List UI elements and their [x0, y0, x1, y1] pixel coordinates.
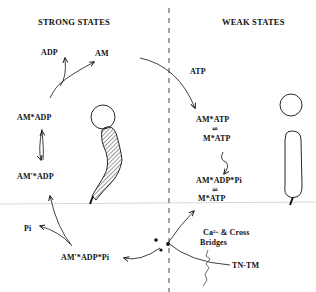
label-am-atp: AM*ATP [196, 115, 229, 124]
label-m-atp-2: M*ATP [198, 194, 225, 203]
scan-artifact-line [0, 202, 316, 204]
arrow-to-am [50, 62, 94, 98]
calcium-superscript: 2+ [213, 229, 219, 234]
dot-1 [154, 238, 158, 242]
label-m-atp-1: M*ATP [203, 134, 230, 143]
weak-lever-outline [285, 131, 302, 198]
cross-text: & Cross [219, 228, 250, 237]
calcium-text: Ca [203, 228, 213, 237]
label-adp: ADP [41, 48, 58, 57]
tn-tm-wavy [203, 250, 210, 286]
equilibrium-icon-2: ⇌ [212, 187, 218, 194]
arrow-to-am-prime-adp-pi [124, 248, 160, 259]
arrow-to-adp [60, 58, 65, 86]
label-bridges: Bridges [200, 238, 227, 247]
arrow-up-am-adp [42, 131, 43, 160]
weak-lever-stub [290, 197, 293, 205]
header-strong-states: STRONG STATES [38, 18, 110, 27]
label-atp: ATP [190, 67, 206, 76]
arrow-down-am-adp [40, 129, 42, 160]
strong-lever-hatched [92, 127, 122, 200]
header-weak-states: WEAK STATES [222, 18, 285, 27]
label-calcium-cross: Ca2+ & Cross [203, 228, 249, 237]
equilibrium-icon-1: ⇌ [212, 126, 218, 133]
label-am: AM [95, 49, 109, 58]
weak-head-circle [280, 94, 302, 116]
arrow-am-to-am-atp [140, 58, 195, 108]
strong-head-circle [91, 105, 115, 129]
label-am-adp-pi: AM*ADP*Pi [196, 176, 242, 185]
crossbridge-cycle-diagram: STRONG STATES WEAK STATES ADP AM AM*ADP … [0, 0, 316, 292]
arrow-hydrolysis [222, 152, 228, 174]
label-tn-tm: TN-TM [232, 261, 259, 270]
arrow-up-weak [168, 211, 194, 243]
strong-lever-stub [90, 196, 93, 204]
dot-3 [166, 242, 170, 246]
label-am-prime-adp-pi: AM'*ADP*Pi [61, 253, 109, 262]
label-am-prime-adp: AM'*ADP [17, 172, 54, 181]
arrow-pi-release [40, 226, 70, 244]
label-am-adp: AM*ADP [17, 113, 51, 122]
dot-2 [159, 248, 162, 251]
label-pi: Pi [24, 224, 31, 233]
diagram-graphics [0, 0, 316, 292]
